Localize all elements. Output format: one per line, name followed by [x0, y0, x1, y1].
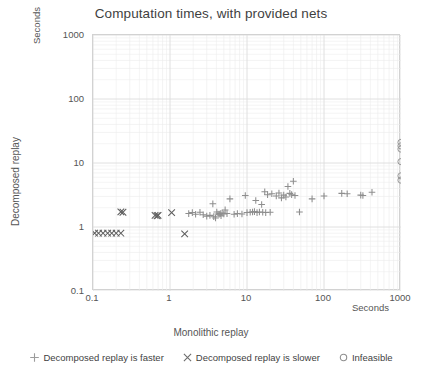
data-point — [290, 178, 297, 185]
legend-label-slower: Decomposed replay is slower — [196, 353, 320, 363]
data-point — [185, 210, 192, 217]
x-axis-units-label: Seconds — [352, 302, 389, 313]
x-axis-title: Monolithic replay — [0, 327, 422, 338]
data-point — [344, 191, 351, 198]
x-tick-1000: 1000 — [380, 292, 420, 303]
chart-legend: Decomposed replay is faster Decomposed r… — [0, 352, 422, 363]
data-point — [203, 213, 210, 220]
y-tick-10: 10 — [38, 157, 84, 168]
y-tick-1000: 1000 — [38, 29, 84, 40]
data-point — [258, 201, 265, 208]
data-point — [181, 231, 188, 238]
data-point — [210, 201, 217, 208]
series-2 — [398, 139, 401, 183]
data-point — [168, 209, 175, 216]
data-point — [296, 209, 303, 216]
data-point — [398, 159, 401, 165]
plus-marker-icon — [29, 352, 40, 363]
x-tick-100: 100 — [303, 292, 343, 303]
legend-label-faster: Decomposed replay is faster — [43, 353, 163, 363]
data-point — [242, 192, 249, 199]
plot-area — [92, 34, 400, 290]
x-tick-0.1: 0.1 — [72, 292, 112, 303]
y-tick-100: 100 — [38, 93, 84, 104]
circle-marker-icon — [338, 352, 349, 363]
legend-item-slower: Decomposed replay is slower — [182, 352, 320, 363]
chart-title: Computation times, with provided nets — [0, 6, 422, 21]
data-point — [231, 211, 238, 218]
data-point — [321, 193, 328, 200]
x-tick-1: 1 — [149, 292, 189, 303]
data-point — [189, 209, 196, 216]
x-tick-10: 10 — [226, 292, 266, 303]
series-0 — [185, 178, 375, 221]
data-point — [252, 197, 259, 204]
legend-item-faster: Decomposed replay is faster — [29, 352, 163, 363]
legend-item-infeasible: Infeasible — [338, 352, 393, 363]
chart-container: Computation times, with provided nets Se… — [0, 0, 422, 385]
data-point — [267, 209, 274, 216]
cross-marker-icon — [182, 352, 193, 363]
y-tick-1: 1 — [38, 221, 84, 232]
y-axis-title: Decomposed replay — [10, 137, 21, 226]
data-point — [369, 189, 376, 196]
legend-label-infeasible: Infeasible — [352, 353, 393, 363]
plot-svg — [93, 35, 401, 291]
